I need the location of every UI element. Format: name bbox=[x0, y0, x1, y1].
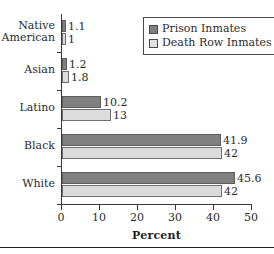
legend-label-death-row-inmates: Death Row Inmates bbox=[162, 37, 272, 49]
bar-value-label: 45.6 bbox=[237, 173, 262, 185]
y-axis-tick bbox=[57, 90, 62, 91]
x-axis-tick bbox=[99, 205, 100, 210]
y-axis-tick bbox=[57, 166, 62, 167]
x-axis-tick-label: 50 bbox=[236, 211, 266, 224]
category-label: Native American bbox=[2, 20, 55, 44]
bottom-divider bbox=[0, 247, 274, 248]
x-axis-tick-label: 20 bbox=[122, 211, 152, 224]
y-axis-tick bbox=[57, 52, 62, 53]
bar-death-row-inmates[interactable] bbox=[62, 33, 66, 45]
category-label: Latino bbox=[19, 102, 55, 114]
bar-value-label: 10.2 bbox=[103, 97, 128, 109]
legend-label-prison-inmates: Prison Inmates bbox=[162, 23, 246, 35]
category-label: Black bbox=[24, 140, 55, 152]
x-axis-tick-label: 40 bbox=[198, 211, 228, 224]
y-axis-tick bbox=[57, 128, 62, 129]
bar-value-label: 1.8 bbox=[71, 72, 89, 84]
bar-value-label: 1.1 bbox=[68, 21, 86, 33]
bar-prison-inmates[interactable] bbox=[62, 58, 67, 70]
bar-death-row-inmates[interactable] bbox=[62, 71, 69, 83]
x-axis-tick-label: 0 bbox=[46, 211, 76, 224]
y-axis-tick bbox=[57, 204, 62, 205]
x-axis-tick-label: 10 bbox=[84, 211, 114, 224]
bar-value-label: 1 bbox=[68, 34, 75, 46]
category-label: Asian bbox=[24, 64, 55, 76]
legend-item-prison-inmates[interactable]: Prison Inmates bbox=[149, 22, 272, 36]
bar-death-row-inmates[interactable] bbox=[62, 109, 111, 121]
legend-swatch-death-row-inmates bbox=[149, 39, 158, 48]
legend-swatch-prison-inmates bbox=[149, 25, 158, 34]
bar-value-label: 1.2 bbox=[69, 59, 87, 71]
bar-prison-inmates[interactable] bbox=[62, 96, 101, 108]
x-axis-tick bbox=[213, 205, 214, 210]
x-axis-title: Percent bbox=[61, 229, 252, 242]
x-axis-tick bbox=[175, 205, 176, 210]
bar-prison-inmates[interactable] bbox=[62, 134, 221, 146]
bar-value-label: 13 bbox=[113, 110, 127, 122]
bar-value-label: 41.9 bbox=[223, 135, 248, 147]
x-axis-tick bbox=[61, 205, 62, 210]
x-axis-tick bbox=[251, 205, 252, 210]
bar-value-label: 42 bbox=[224, 186, 238, 198]
legend-item-death-row-inmates[interactable]: Death Row Inmates bbox=[149, 36, 272, 50]
bar-prison-inmates[interactable] bbox=[62, 20, 66, 32]
bar-death-row-inmates[interactable] bbox=[62, 185, 222, 197]
bar-prison-inmates[interactable] bbox=[62, 172, 235, 184]
legend: Prison Inmates Death Row Inmates bbox=[143, 17, 274, 55]
x-axis-tick-label: 30 bbox=[160, 211, 190, 224]
x-axis-line bbox=[61, 204, 252, 205]
bar-death-row-inmates[interactable] bbox=[62, 147, 222, 159]
category-label: White bbox=[22, 178, 55, 190]
x-axis-tick bbox=[137, 205, 138, 210]
bar-chart: 01020304050 Native AmericanAsianLatinoBl… bbox=[0, 0, 274, 254]
bar-value-label: 42 bbox=[224, 148, 238, 160]
